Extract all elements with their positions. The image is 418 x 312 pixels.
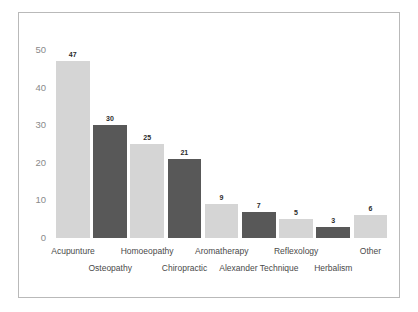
bar-group: 6 — [354, 215, 388, 238]
bar[interactable] — [205, 204, 239, 238]
bar-group: 25 — [130, 144, 164, 238]
bar-group: 3 — [316, 227, 350, 238]
bar[interactable] — [93, 125, 127, 238]
caption-text: ....... ..... ....... ....... — [0, 0, 418, 3]
bar-group: 9 — [205, 204, 239, 238]
bar-chart: 01020304050 4730252197536 AcupuntureOste… — [18, 12, 400, 298]
x-axis-label-reflexology: Reflexology — [274, 246, 318, 256]
bar-value-label: 25 — [130, 134, 164, 142]
bar-group: 47 — [56, 61, 90, 238]
x-axis-label-other: Other — [360, 246, 381, 256]
x-axis-label-chiropractic: Chiropractic — [162, 263, 207, 273]
truncated-caption: ....... ..... ....... ....... — [0, 0, 418, 3]
bar[interactable] — [316, 227, 350, 238]
x-axis-label-alexander-technique: Alexander Technique — [219, 263, 298, 273]
bar[interactable] — [130, 144, 164, 238]
bar-value-label: 6 — [354, 205, 388, 213]
bar-value-label: 30 — [93, 115, 127, 123]
x-axis-label-acupunture: Acupunture — [51, 246, 94, 256]
bar-value-label: 5 — [279, 209, 313, 217]
bar-value-label: 3 — [316, 217, 350, 225]
bar[interactable] — [279, 219, 313, 238]
bar-group: 5 — [279, 219, 313, 238]
x-axis-label-herbalism: Herbalism — [314, 263, 352, 273]
bar-group: 21 — [168, 159, 202, 238]
bar-value-label: 47 — [56, 51, 90, 59]
bar[interactable] — [56, 61, 90, 238]
x-axis-label-homoeopathy: Homoeopathy — [121, 246, 174, 256]
bar[interactable] — [168, 159, 202, 238]
bar[interactable] — [242, 212, 276, 238]
bar-value-label: 7 — [242, 202, 276, 210]
x-axis-label-osteopathy: Osteopathy — [88, 263, 131, 273]
bar[interactable] — [354, 215, 388, 238]
bar-group: 7 — [242, 212, 276, 238]
x-axis-label-aromatherapy: Aromatherapy — [195, 246, 248, 256]
bar-value-label: 21 — [168, 149, 202, 157]
bar-group: 30 — [93, 125, 127, 238]
bar-value-label: 9 — [205, 194, 239, 202]
